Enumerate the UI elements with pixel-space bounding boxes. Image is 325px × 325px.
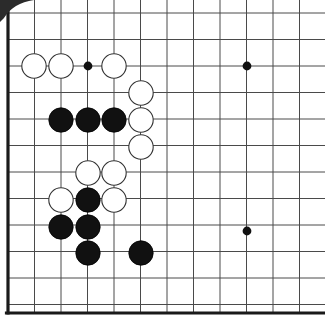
black-stone[interactable]	[76, 215, 100, 239]
white-stone[interactable]	[129, 108, 153, 132]
black-stone[interactable]	[76, 188, 100, 212]
black-stone[interactable]	[76, 241, 100, 265]
white-stone[interactable]	[129, 135, 153, 159]
grid-lines-group	[8, 0, 325, 313]
black-stone[interactable]	[129, 241, 153, 265]
white-stone[interactable]	[49, 54, 73, 78]
white-stone[interactable]	[102, 161, 126, 185]
black-stone[interactable]	[49, 108, 73, 132]
black-stone[interactable]	[49, 215, 73, 239]
black-stone[interactable]	[76, 108, 100, 132]
white-stone[interactable]	[102, 54, 126, 78]
black-stone[interactable]	[102, 108, 126, 132]
white-stone[interactable]	[76, 161, 100, 185]
go-board-canvas[interactable]	[0, 0, 325, 325]
star-point-upper-middle	[243, 62, 252, 71]
star-point-upper-left	[84, 62, 93, 71]
star-point-middle-left	[243, 227, 252, 236]
go-board-diagram	[0, 0, 325, 325]
white-stone[interactable]	[102, 188, 126, 212]
white-stone[interactable]	[49, 188, 73, 212]
white-stone[interactable]	[22, 54, 46, 78]
board-edge-lines	[7, 0, 325, 313]
white-stone[interactable]	[129, 81, 153, 105]
